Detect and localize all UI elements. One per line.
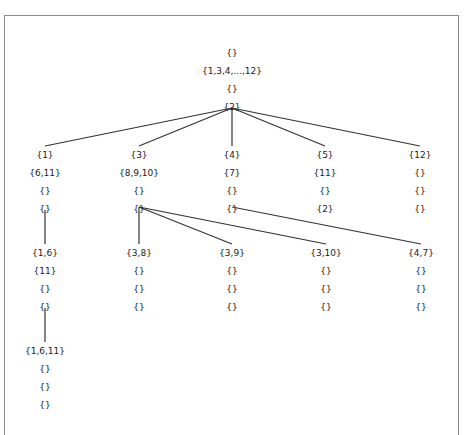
tree-node-3: {3} {8,9,10} {} {}: [94, 146, 184, 218]
node-row: {5}: [280, 146, 370, 164]
tree-node-root: {} {1,3,4,...,12} {} {2}: [187, 44, 277, 116]
node-row: {}: [0, 378, 90, 396]
tree-node-3-10: {3,10} {} {} {}: [281, 244, 371, 316]
node-row: {3,8}: [94, 244, 184, 262]
node-row: {1,6,11}: [0, 342, 90, 360]
node-row: {}: [187, 44, 277, 62]
node-row: {}: [187, 80, 277, 98]
node-row: {}: [187, 280, 277, 298]
node-row: {6,11}: [0, 164, 90, 182]
node-row: {7}: [187, 164, 277, 182]
node-row: {}: [187, 298, 277, 316]
node-row: {}: [281, 280, 371, 298]
node-row: {}: [94, 182, 184, 200]
node-row: {}: [94, 262, 184, 280]
node-row: {3,10}: [281, 244, 371, 262]
tree-node-1-6: {1,6} {11} {} {}: [0, 244, 90, 316]
tree-node-1-6-11: {1,6,11} {} {} {}: [0, 342, 90, 414]
tree-node-5: {5} {11} {} {2}: [280, 146, 370, 218]
node-row: {2}: [187, 98, 277, 116]
node-row: {}: [0, 280, 90, 298]
node-row: {}: [94, 200, 184, 218]
tree-node-1: {1} {6,11} {} {}: [0, 146, 90, 218]
node-row: {}: [94, 298, 184, 316]
node-row: {}: [0, 298, 90, 316]
node-row: {}: [281, 298, 371, 316]
node-row: {11}: [0, 262, 90, 280]
node-row: {2}: [280, 200, 370, 218]
node-row: {8,9,10}: [94, 164, 184, 182]
node-row: {1}: [0, 146, 90, 164]
node-row: {}: [187, 262, 277, 280]
node-row: {}: [281, 262, 371, 280]
node-row: {}: [375, 182, 465, 200]
node-row: {}: [0, 182, 90, 200]
node-row: {}: [0, 200, 90, 218]
node-row: {}: [0, 360, 90, 378]
node-row: {}: [187, 182, 277, 200]
node-row: {3,9}: [187, 244, 277, 262]
node-row: {}: [280, 182, 370, 200]
node-row: {}: [94, 280, 184, 298]
tree-node-12: {12} {} {} {}: [375, 146, 465, 218]
node-row: {12}: [375, 146, 465, 164]
node-row: {1,6}: [0, 244, 90, 262]
node-row: {3}: [94, 146, 184, 164]
node-row: {}: [376, 262, 466, 280]
node-row: {}: [376, 298, 466, 316]
tree-node-4-7: {4,7} {} {} {}: [376, 244, 466, 316]
tree-node-3-9: {3,9} {} {} {}: [187, 244, 277, 316]
tree-node-4: {4} {7} {} {}: [187, 146, 277, 218]
node-row: {11}: [280, 164, 370, 182]
node-row: {1,3,4,...,12}: [187, 62, 277, 80]
node-row: {4}: [187, 146, 277, 164]
node-row: {}: [376, 280, 466, 298]
node-row: {4,7}: [376, 244, 466, 262]
node-row: {}: [375, 200, 465, 218]
node-row: {}: [375, 164, 465, 182]
node-row: {}: [187, 200, 277, 218]
tree-node-3-8: {3,8} {} {} {}: [94, 244, 184, 316]
node-row: {}: [0, 396, 90, 414]
